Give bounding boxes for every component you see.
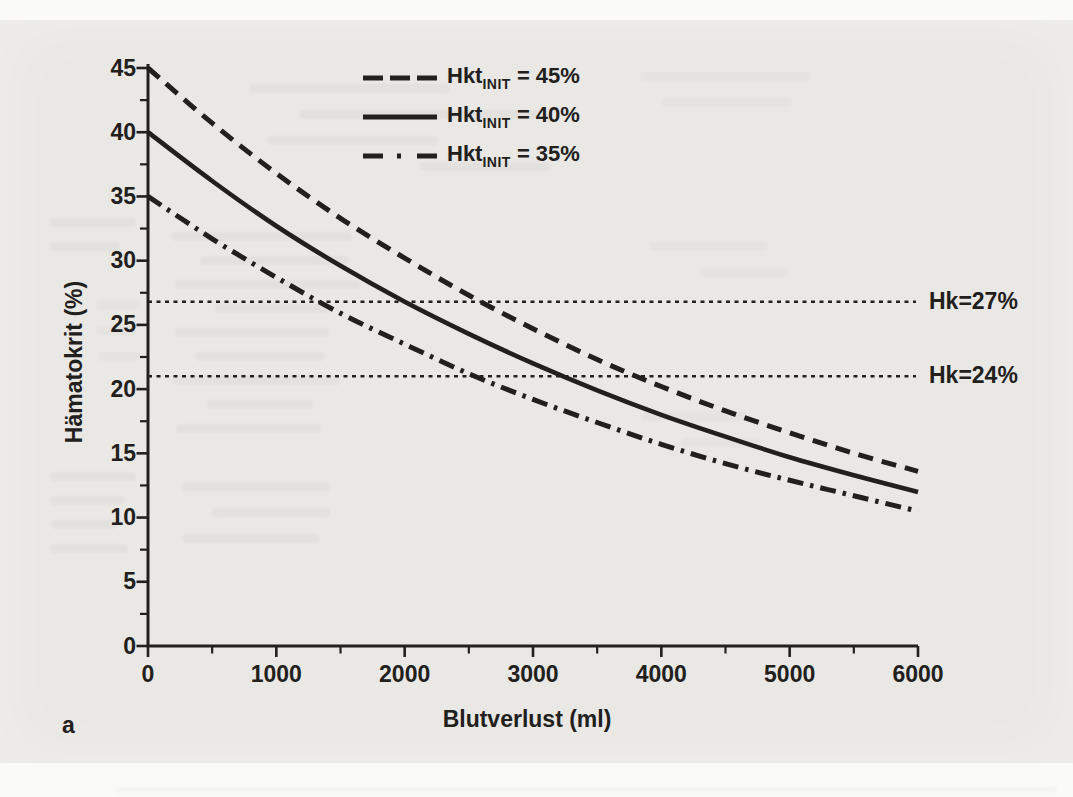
y-tick-label: 15 — [48, 440, 136, 467]
x-tick-label: 6000 — [868, 661, 968, 688]
legend-item: HktINIT= 45% — [363, 58, 580, 97]
x-tick-label: 3000 — [483, 661, 583, 688]
y-tick-label: 45 — [48, 55, 136, 82]
legend-line-solid-icon — [363, 111, 439, 123]
x-tick-label: 5000 — [740, 661, 840, 688]
legend-item: HktINIT= 40% — [363, 97, 580, 136]
y-tick-label: 35 — [48, 183, 136, 210]
x-tick-label: 0 — [98, 661, 198, 688]
y-tick-label: 5 — [48, 568, 136, 595]
y-tick-label: 0 — [48, 633, 136, 660]
legend-line-dashdot-icon — [363, 150, 439, 162]
y-tick-label: 30 — [48, 247, 136, 274]
panel-label: a — [62, 712, 75, 739]
y-tick-label: 25 — [48, 311, 136, 338]
scanned-page: Hämatokrit (%) Blutverlust (ml) HktINIT=… — [0, 0, 1073, 797]
y-tick-label: 20 — [48, 376, 136, 403]
y-tick-label: 40 — [48, 119, 136, 146]
y-axis-title: Hämatokrit (%) — [61, 281, 88, 443]
y-tick-label: 10 — [48, 504, 136, 531]
x-tick-label: 4000 — [611, 661, 711, 688]
legend-label: HktINIT= 45% — [447, 63, 580, 92]
legend: HktINIT= 45%HktINIT= 40%HktINIT= 35% — [363, 58, 580, 175]
curve-dashdot — [148, 196, 918, 511]
x-tick-label: 1000 — [226, 661, 326, 688]
legend-item: HktINIT= 35% — [363, 136, 580, 175]
x-tick-label: 2000 — [355, 661, 455, 688]
reference-line-label: Hk=27% — [929, 288, 1018, 315]
legend-line-dashed-icon — [363, 72, 439, 84]
reference-line-label: Hk=24% — [929, 362, 1018, 389]
legend-label: HktINIT= 40% — [447, 102, 580, 131]
bleed-through-caption — [115, 787, 1057, 793]
x-axis-title: Blutverlust (ml) — [443, 706, 612, 733]
legend-label: HktINIT= 35% — [447, 141, 580, 170]
